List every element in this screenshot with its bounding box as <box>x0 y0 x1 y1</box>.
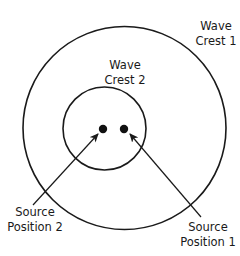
wave-crest-1-label-line2: Crest 1 <box>193 34 239 49</box>
source-position-2-label: Source Position 2 <box>3 205 67 235</box>
source-position-1-dot <box>120 125 128 133</box>
arrow-to-source-1 <box>130 134 201 217</box>
wave-crest-2-label-line1: Wave <box>102 58 148 73</box>
source-position-2-dot <box>99 125 107 133</box>
source-position-1-label-line1: Source <box>176 220 240 235</box>
source-position-2-label-line1: Source <box>3 205 67 220</box>
wave-crest-1-label: Wave Crest 1 <box>193 19 239 49</box>
wave-crest-2-label: Wave Crest 2 <box>102 58 148 88</box>
source-position-1-label-line2: Position 1 <box>176 235 240 250</box>
source-position-2-label-line2: Position 2 <box>3 220 67 235</box>
source-position-1-label: Source Position 1 <box>176 220 240 250</box>
wave-crest-1-label-line1: Wave <box>193 19 239 34</box>
wave-crest-2-label-line2: Crest 2 <box>102 73 148 88</box>
